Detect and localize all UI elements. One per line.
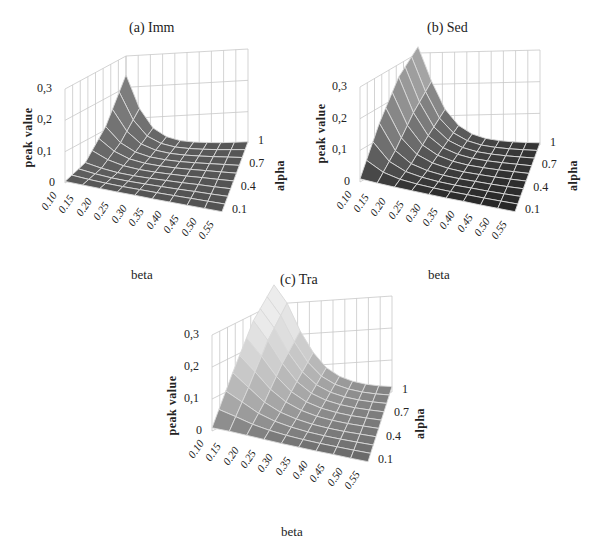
- x-axis-label: beta: [281, 524, 303, 540]
- z-tick-label: 0: [196, 423, 202, 438]
- y-tick-label: 0.7: [249, 156, 264, 171]
- y-tick-label: 0.1: [232, 202, 247, 217]
- z-tick-label: 0,2: [184, 359, 199, 374]
- chart-panel-imm: (a) Imm peak value alpha beta 00,10,20,3…: [0, 0, 300, 275]
- z-tick-label: 0,3: [37, 81, 52, 96]
- y-tick-label: 0.4: [241, 179, 256, 194]
- z-axis-label: peak value: [314, 103, 329, 163]
- y-tick-label: 1: [550, 135, 556, 150]
- z-tick-label: 0,3: [184, 327, 199, 342]
- y-tick-label: 0.1: [378, 452, 393, 467]
- y-tick-label: 1: [402, 382, 408, 397]
- y-tick-label: 0.4: [533, 180, 548, 195]
- z-tick-label: 0,2: [37, 112, 52, 127]
- y-tick-label: 0.4: [386, 429, 401, 444]
- y-tick-label: 1: [258, 133, 264, 148]
- surface-plot: [0, 0, 300, 275]
- y-axis-label: alpha: [566, 160, 581, 191]
- z-tick-label: 0,2: [332, 111, 347, 126]
- z-tick-label: 0,1: [37, 144, 52, 159]
- z-tick-label: 0,3: [332, 79, 347, 94]
- z-tick-label: 0: [49, 175, 55, 190]
- chart-panel-sed: (b) Sed peak value alpha beta 00,10,20,3…: [297, 0, 597, 275]
- y-axis-label: alpha: [273, 160, 288, 191]
- y-axis-label: alpha: [413, 408, 428, 439]
- z-tick-label: 0,1: [184, 391, 199, 406]
- z-tick-label: 0,1: [332, 142, 347, 157]
- y-tick-label: 0.7: [394, 405, 409, 420]
- z-axis-label: peak value: [21, 107, 36, 167]
- z-tick-label: 0: [344, 174, 350, 189]
- y-tick-label: 0.7: [542, 157, 557, 172]
- z-axis-label: peak value: [165, 375, 180, 435]
- y-tick-label: 0.1: [525, 202, 540, 217]
- chart-panel-tra: (c) Tra peak value alpha beta 00,10,20,3…: [150, 270, 450, 554]
